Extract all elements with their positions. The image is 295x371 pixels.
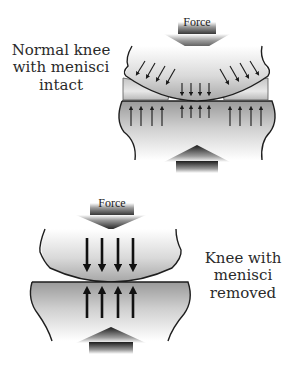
- force-label-top: Force: [176, 15, 218, 30]
- top-panel: [119, 22, 275, 173]
- caption-line: intact: [2, 77, 120, 94]
- caption-line: removed: [193, 285, 293, 302]
- caption-normal-knee: Normal knee with menisci intact: [2, 42, 120, 94]
- force-label-bottom: Force: [90, 196, 134, 211]
- caption-line: Knee with: [193, 250, 293, 267]
- caption-line: menisci: [193, 267, 293, 284]
- caption-menisci-removed: Knee with menisci removed: [193, 250, 293, 302]
- bottom-panel: [30, 203, 190, 354]
- caption-line: with menisci: [2, 59, 120, 76]
- femur-shape: [41, 229, 180, 282]
- caption-line: Normal knee: [2, 42, 120, 59]
